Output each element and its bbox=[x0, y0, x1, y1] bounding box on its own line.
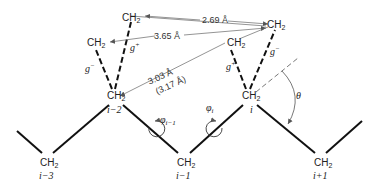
svg-text:CH2: CH2 bbox=[227, 37, 245, 49]
atom-ch2-i-minus-2: CH2 i−2 bbox=[107, 90, 125, 115]
svg-text:i−2: i−2 bbox=[107, 104, 122, 115]
svg-text:i+1: i+1 bbox=[313, 170, 328, 181]
svg-text:CH2: CH2 bbox=[314, 157, 332, 169]
svg-text:CH2: CH2 bbox=[122, 12, 140, 24]
atom-ch2-g-minus-left: CH2 bbox=[87, 37, 105, 49]
rotation-icon-phi-i bbox=[206, 121, 222, 137]
atom-ch2-i: CH2 i bbox=[242, 90, 260, 115]
conformation-diagram: CH2 CH2 CH2 CH2 g+ g− g− g+ 2.69 Å 3.65 … bbox=[0, 0, 374, 183]
svg-text:i−1: i−1 bbox=[176, 170, 191, 181]
distance-3-03-group: 3.03 Å (3.17 Å) bbox=[146, 63, 187, 97]
atom-ch2-i-minus-3: CH2 i−3 bbox=[39, 157, 58, 181]
label-theta: θ bbox=[296, 90, 301, 101]
svg-text:CH2: CH2 bbox=[40, 157, 58, 169]
gauche-bonds bbox=[96, 22, 275, 89]
svg-text:CH2: CH2 bbox=[267, 19, 285, 31]
atom-ch2-i-minus-1: CH2 i−1 bbox=[176, 157, 195, 181]
svg-text:i−3: i−3 bbox=[39, 170, 54, 181]
svg-text:i: i bbox=[250, 104, 253, 115]
bond-angle-theta bbox=[256, 58, 298, 124]
label-g-plus-left: g+ bbox=[130, 41, 140, 53]
atom-ch2-g-plus-left: CH2 bbox=[122, 12, 140, 24]
svg-text:CH2: CH2 bbox=[87, 37, 105, 49]
atom-ch2-i-plus-1: CH2 i+1 bbox=[313, 157, 332, 181]
backbone-bonds bbox=[17, 105, 362, 153]
svg-text:CH2: CH2 bbox=[107, 90, 125, 102]
svg-text:CH2: CH2 bbox=[177, 157, 195, 169]
distance-2-69: 2.69 Å bbox=[202, 15, 228, 25]
label-g-minus-right: g− bbox=[270, 45, 280, 57]
label-phi-i: φi bbox=[206, 102, 214, 115]
label-g-plus-right: g+ bbox=[226, 60, 236, 72]
label-g-minus-left: g− bbox=[85, 62, 95, 74]
atom-ch2-g-minus-right: CH2 bbox=[267, 19, 285, 31]
distance-3-65: 3.65 Å bbox=[154, 31, 180, 41]
atom-ch2-g-plus-right: CH2 bbox=[227, 37, 245, 49]
svg-text:CH2: CH2 bbox=[242, 90, 260, 102]
label-phi-i-minus-1: φi−1 bbox=[160, 114, 176, 127]
